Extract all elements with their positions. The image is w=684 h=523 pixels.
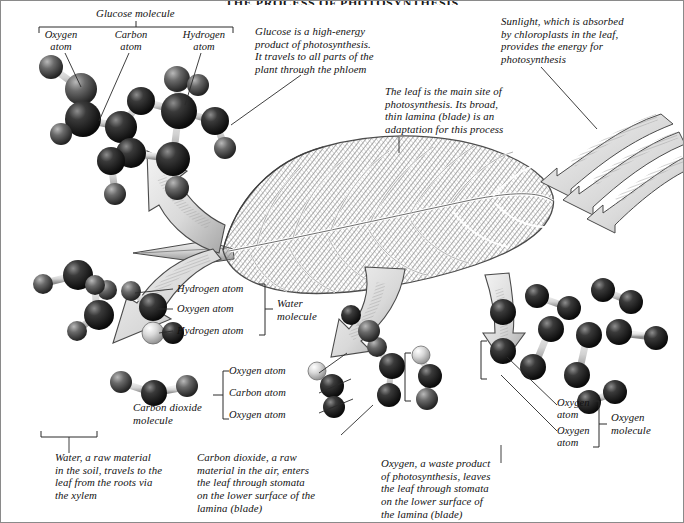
water-caption: Water, a raw material in the soil, trave… <box>55 451 215 502</box>
water-hydrogen-atom-top-label: Hydrogen atom <box>177 283 244 295</box>
glucose-group-label: Glucose molecule <box>96 7 175 20</box>
co2-oxygen-atom-bottom-label: Oxygen atom <box>229 409 286 421</box>
glucose-note: Glucose is a high-energy product of phot… <box>255 25 435 76</box>
oxygen-caption: Oxygen, a waste product of photosynthesi… <box>381 457 557 521</box>
oxygen-atom-top-label: Oxygen atom <box>557 397 607 422</box>
leaf-note: The leaf is the main site of photosynthe… <box>385 85 563 136</box>
glucose-arrow <box>147 151 225 253</box>
water-oxygen-atom-label: Oxygen atom <box>177 303 234 315</box>
carbon-dioxide-caption: Carbon dioxide, a raw material in the ai… <box>197 451 369 515</box>
oxygen-arrow <box>483 273 525 363</box>
carbon-dioxide-arrow <box>331 267 405 357</box>
carbon-dioxide-molecule-label: Carbon dioxide molecule <box>133 401 229 426</box>
photosynthesis-diagram: THE PROCESS OF PHOTOSYNTHESIS <box>0 0 684 523</box>
oxygen-molecule-label: Oxygen molecule <box>611 411 677 436</box>
glucose-hydrogen-atom-label: Hydrogen atom <box>173 29 235 54</box>
oxygen-molecule-models <box>490 278 668 414</box>
water-hydrogen-atom-bottom-label: Hydrogen atom <box>177 325 244 337</box>
co2-oxygen-atom-top-label: Oxygen atom <box>229 365 286 377</box>
glucose-molecule-model <box>39 55 236 205</box>
glucose-oxygen-atom-label: Oxygen atom <box>33 29 89 54</box>
co2-carbon-atom-label: Carbon atom <box>229 387 286 399</box>
sunlight-note: Sunlight, which is absorbed by chloropla… <box>501 15 681 66</box>
glucose-carbon-atom-label: Carbon atom <box>103 29 159 54</box>
figure-title: THE PROCESS OF PHOTOSYNTHESIS <box>1 0 683 5</box>
leaf-illustration <box>133 136 554 294</box>
oxygen-atom-bottom-label: Oxygen atom <box>557 425 607 450</box>
water-molecule-label: Water molecule <box>277 297 341 322</box>
water-molecule-models <box>33 260 184 344</box>
